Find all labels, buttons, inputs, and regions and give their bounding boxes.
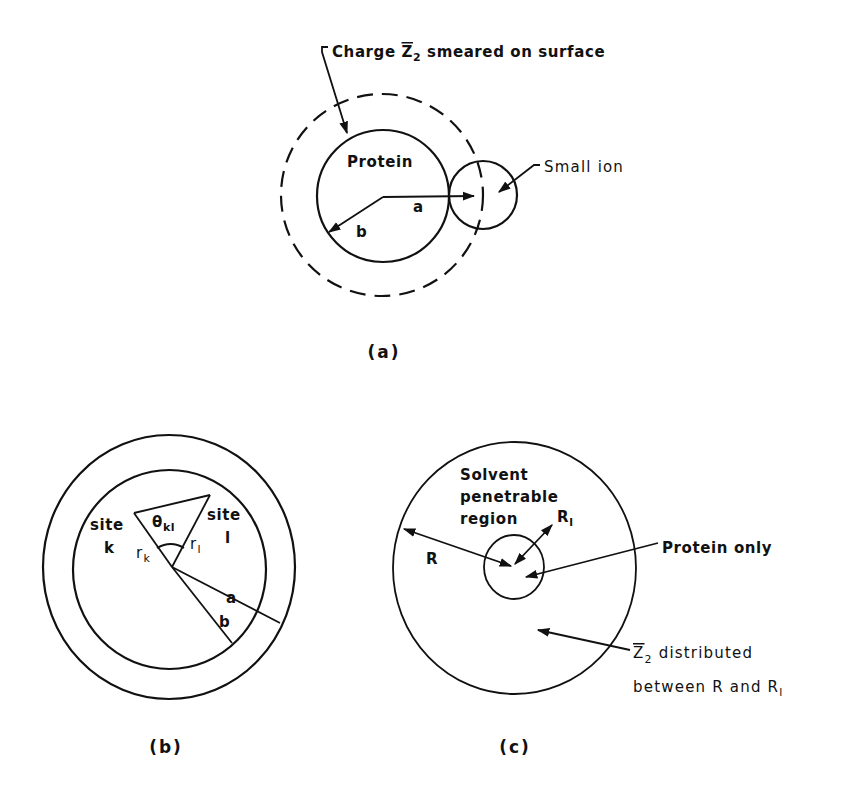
radius-b-line — [172, 567, 232, 643]
solvent-penetrable-label-line3: region — [460, 510, 518, 528]
z2-distributed-leader — [538, 630, 630, 650]
radius-b-label: b — [219, 613, 230, 631]
z2-distributed-label-line2: between R and Rl — [633, 678, 784, 699]
theta-kl-angle-arc — [157, 544, 184, 548]
radius-a-arrow — [383, 196, 474, 197]
radius-a-label: a — [413, 198, 424, 216]
protein-only-label: Protein only — [662, 539, 772, 557]
r-l-vector — [172, 495, 210, 567]
radius-R1-arrow — [515, 525, 552, 564]
solvent-penetrable-label-line1: Solvent — [460, 466, 528, 484]
z2-bar-symbol: Z — [402, 43, 413, 61]
radius-b-label: b — [356, 223, 367, 241]
panel-b-caption: (b) — [149, 737, 183, 757]
site-k-index: k — [104, 539, 115, 557]
panel-a-caption: (a) — [367, 342, 400, 362]
protein-charge-models-figure: Charge Z2 smeared on surface Protein Sma… — [0, 0, 868, 794]
small-ion-label: Small ion — [544, 158, 624, 176]
site-l-index: l — [225, 529, 231, 547]
protein-only-core-radius-R1 — [484, 535, 544, 599]
inner-sphere-radius-b — [73, 470, 266, 669]
protein-only-leader — [526, 543, 658, 577]
outer-sphere-radius-a — [43, 435, 295, 699]
charge-label: Charge Z2 smeared on surface — [332, 43, 605, 64]
panel-b: site k site l θkl rk rl a b (b) — [43, 435, 295, 757]
smeared-charge-surface-dashed-circle — [281, 94, 483, 296]
r-k-label: rk — [136, 544, 151, 565]
solvent-penetrable-label-line2: penetrable — [460, 488, 559, 506]
protein-label: Protein — [347, 153, 413, 171]
radius-a-label: a — [226, 589, 237, 607]
radius-R-label: R — [426, 550, 438, 568]
panel-a: Charge Z2 smeared on surface Protein Sma… — [281, 43, 624, 362]
theta-kl-label: θkl — [152, 513, 175, 534]
radius-R-arrow — [404, 529, 511, 566]
site-l-label: site — [207, 506, 241, 524]
panel-c-caption: (c) — [499, 737, 531, 757]
z2-distributed-label-line1: Z2 distributed — [633, 644, 753, 666]
radius-R1-label: Rl — [557, 508, 574, 529]
site-k-to-site-l-line — [134, 495, 210, 513]
r-l-label: rl — [190, 535, 202, 556]
z2-bar-symbol: Z — [633, 644, 644, 662]
site-k-label: site — [90, 516, 124, 534]
panel-c: Solvent penetrable region R Rl Protein o… — [393, 442, 784, 757]
